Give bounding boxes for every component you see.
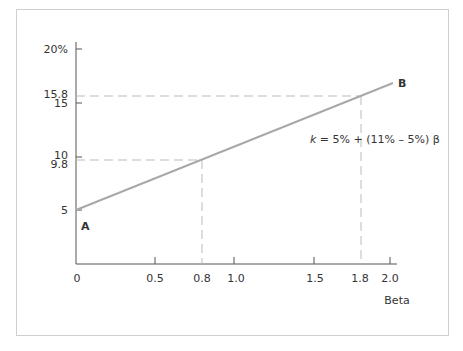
x-axis-title: Beta	[384, 294, 409, 307]
x-label-2-0: 2.0	[381, 272, 399, 285]
x-label-1-0: 1.0	[227, 272, 245, 285]
x-label-1-8: 1.8	[351, 272, 369, 285]
x-label-0-8: 0.8	[193, 272, 211, 285]
sml-equation: k = 5% + (11% – 5%) β	[310, 133, 440, 146]
sml-line	[76, 83, 393, 210]
sml-chart: 20% 15.8 15 10 9.8 5 0 0.5 0.8 1.0 1.5 1…	[0, 0, 463, 351]
y-label-15: 15	[54, 97, 68, 110]
x-label-0-5: 0.5	[146, 272, 164, 285]
y-label-5: 5	[61, 204, 68, 217]
x-label-0: 0	[74, 272, 81, 285]
x-label-1-5: 1.5	[306, 272, 324, 285]
point-label-b: B	[398, 77, 406, 90]
y-label-20: 20%	[44, 43, 68, 56]
point-label-a: A	[81, 220, 90, 233]
equation-rest: = 5% + (11% – 5%) β	[316, 133, 439, 146]
y-label-9-8: 9.8	[51, 158, 69, 171]
